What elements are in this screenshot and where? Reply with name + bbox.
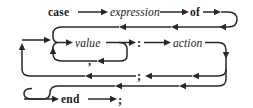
arrow-row2-left [119,24,126,30]
arrow-exit-row-mid [115,83,122,89]
arrow-into-value-junction [44,37,51,43]
label-value: value [75,37,100,49]
label-of: of [190,6,200,18]
arrow-to-end [52,96,59,102]
label-case: case [48,6,69,18]
label-colon: : [137,36,141,50]
arrow-row2-mid [171,24,178,30]
rail-comma-loop-right [104,54,127,61]
arrow-of-right [214,9,221,15]
rail-row2-curve-down [53,27,62,37]
arrow-comma-loop-up [50,47,56,54]
arrow-to-of [182,9,189,15]
arrow-exit-row-right [179,83,186,89]
label-action: action [173,37,202,49]
railroad-diagram: case expression of value : action , ; en… [0,0,253,108]
label-expression: expression [110,6,160,19]
rail-right-down-to-semicolon-row [199,56,226,76]
arrow-to-colon [129,39,136,45]
arrow-to-value [66,39,73,45]
rail-value-to-comma-branch [119,43,127,55]
arrow-to-semicolon [145,73,152,79]
label-end: end [61,93,80,105]
rail-right-down-to-exit-row [186,69,226,86]
rail-end-left-uturn [24,89,32,100]
arrow-to-action [164,39,171,45]
arrow-to-comma [97,58,104,64]
arrow-to-expression [101,9,108,15]
arrow-semicolon-row-left [85,73,92,79]
arrow-feedback-up [19,43,25,50]
arrow-semicolon-row-right [192,73,199,79]
label-comma: , [88,54,91,68]
label-semicolon-loop: ; [137,69,141,83]
rail-action-to-right-down [205,43,226,57]
railroad-svg: case expression of value : action , ; en… [0,0,253,108]
row-exit-rail [24,69,226,99]
rail-fork-junction [53,37,57,50]
arrow-to-final-semicolon [110,96,117,102]
label-semicolon-final: ; [118,93,122,107]
rail-right-uturn-row1-row2 [221,12,237,27]
